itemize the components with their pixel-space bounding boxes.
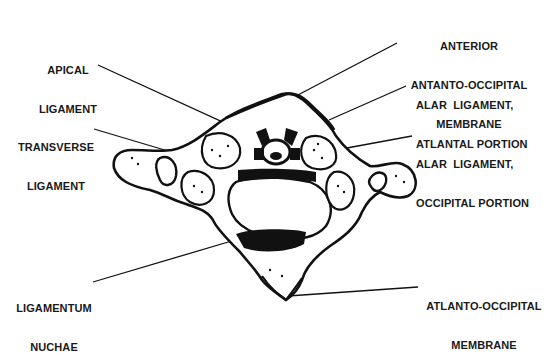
label-line: LIGAMENTUM [14, 302, 94, 315]
leader-ao-membrane [288, 287, 418, 296]
label-atlanto-occipital-membrane: ATLANTO-OCCIPITAL MEMBRANE [424, 274, 544, 355]
label-line: OCCIPITAL PORTION [416, 197, 551, 210]
label-line: NUCHAE [14, 341, 94, 354]
label-line: TRANSVERSE [14, 141, 98, 154]
atlas-bone [114, 94, 416, 301]
leader-alar-atlantal [329, 86, 406, 120]
label-line: MEMBRANE [424, 339, 544, 352]
leader-nuchae [93, 240, 235, 282]
label-line: APICAL [28, 64, 108, 77]
label-line: LIGAMENT [14, 180, 98, 193]
label-line: ANTERIOR [404, 40, 534, 53]
label-alar-occipital: ALAR LIGAMENT, OCCIPITAL PORTION [416, 132, 551, 223]
label-line: ALAR LIGAMENT, [416, 99, 546, 112]
leader-anterior-membrane [296, 43, 397, 96]
label-line: ATLANTO-OCCIPITAL [424, 300, 544, 313]
label-transverse-ligament: TRANSVERSE LIGAMENT [14, 115, 98, 206]
label-ligamentum-nuchae: LIGAMENTUM NUCHAE [14, 276, 94, 355]
label-line: ALAR LIGAMENT, [416, 158, 551, 171]
